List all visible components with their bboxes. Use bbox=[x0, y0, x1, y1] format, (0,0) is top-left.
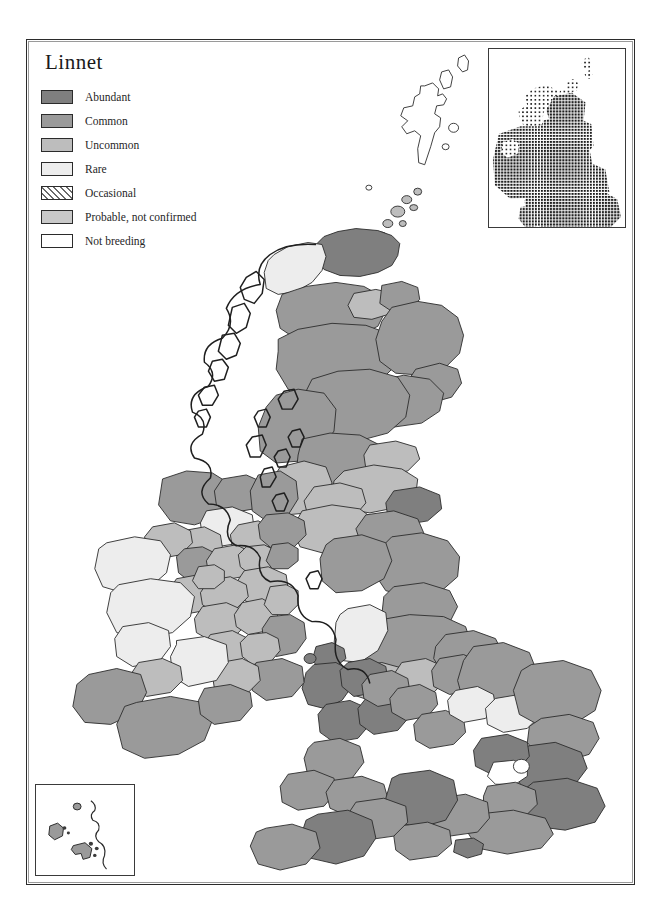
region-shetland bbox=[401, 55, 469, 165]
region-waterford bbox=[198, 684, 252, 724]
legend-item-probable-not-confirmed: Probable, not confirmed bbox=[41, 207, 271, 227]
legend-swatch-abundant bbox=[41, 90, 73, 104]
region-cork bbox=[117, 696, 213, 758]
region-aberdeen bbox=[376, 301, 464, 375]
legend: Linnet Abundant Common Uncommon Rare Occ… bbox=[41, 50, 271, 255]
region-cornwall bbox=[250, 824, 320, 870]
legend-swatch-probable-not-confirmed bbox=[41, 210, 73, 224]
map-frame: Linnet Abundant Common Uncommon Rare Occ… bbox=[26, 39, 635, 885]
legend-label-occasional: Occasional bbox=[85, 187, 136, 199]
distribution-dot-map-inset bbox=[488, 48, 626, 228]
legend-swatch-common bbox=[41, 114, 73, 128]
region-isle-of-wight bbox=[454, 838, 484, 858]
legend-item-occasional: Occasional bbox=[41, 183, 271, 203]
legend-label-uncommon: Uncommon bbox=[85, 139, 139, 151]
legend-swatch-uncommon bbox=[41, 138, 73, 152]
legend-swatch-occasional bbox=[41, 186, 73, 200]
legend-swatch-not-breeding bbox=[41, 234, 73, 248]
page-title: Linnet bbox=[45, 50, 271, 75]
legend-item-common: Common bbox=[41, 111, 271, 131]
legend-swatch-rare bbox=[41, 162, 73, 176]
legend-label-common: Common bbox=[85, 115, 128, 127]
region-dublin bbox=[264, 585, 298, 615]
channel-islands-svg bbox=[36, 785, 134, 875]
legend-label-abundant: Abundant bbox=[85, 91, 130, 103]
legend-label-rare: Rare bbox=[85, 163, 107, 175]
distribution-dot-map-svg bbox=[489, 49, 625, 227]
legend-label-probable-not-confirmed: Probable, not confirmed bbox=[85, 211, 196, 223]
legend-item-uncommon: Uncommon bbox=[41, 135, 271, 155]
legend-item-abundant: Abundant bbox=[41, 87, 271, 107]
legend-item-not-breeding: Not breeding bbox=[41, 231, 271, 251]
legend-label-not-breeding: Not breeding bbox=[85, 235, 145, 247]
channel-islands-inset bbox=[35, 784, 135, 876]
region-caithness bbox=[316, 229, 400, 277]
legend-item-rare: Rare bbox=[41, 159, 271, 179]
